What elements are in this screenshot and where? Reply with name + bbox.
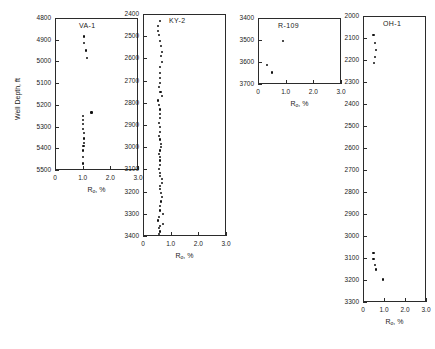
ytick-label-oh-1-2700: 2700 xyxy=(334,166,359,173)
ytick-mark-oh-1-2800 xyxy=(363,192,367,193)
xtick-label-oh-1-0: 0 xyxy=(353,306,373,313)
ytick-mark-oh-1-2700 xyxy=(363,170,367,171)
ytick-label-oh-1-2600: 2600 xyxy=(334,144,359,151)
ytick-label-oh-1-2200: 2200 xyxy=(334,56,359,63)
xaxis-title-oh-1: Ro, % xyxy=(370,318,420,326)
data-point xyxy=(382,278,384,280)
ytick-label-oh-1-2500: 2500 xyxy=(334,122,359,129)
ytick-mark-oh-1-2200 xyxy=(363,60,367,61)
data-point xyxy=(372,258,374,260)
xtick-mark-oh-1-1.0 xyxy=(384,298,385,302)
data-point xyxy=(372,34,374,36)
ytick-label-oh-1-2400: 2400 xyxy=(334,100,359,107)
panel-oh-1: OH-1200021002200230024002500260027002800… xyxy=(0,0,435,349)
panel-title-oh-1: OH-1 xyxy=(383,20,401,27)
ytick-label-oh-1-2300: 2300 xyxy=(334,78,359,85)
data-point xyxy=(375,268,377,270)
data-point xyxy=(374,42,376,44)
ytick-mark-oh-1-2300 xyxy=(363,82,367,83)
ytick-label-oh-1-2100: 2100 xyxy=(334,34,359,41)
xtick-mark-oh-1-2.0 xyxy=(405,298,406,302)
ytick-label-oh-1-2900: 2900 xyxy=(334,210,359,217)
xtick-label-oh-1-2.0: 2.0 xyxy=(395,306,415,313)
xaxis-title-unit: , % xyxy=(393,318,403,325)
ytick-label-oh-1-2000: 2000 xyxy=(334,12,359,19)
ytick-mark-oh-1-3100 xyxy=(363,258,367,259)
ytick-mark-oh-1-3000 xyxy=(363,236,367,237)
ytick-label-oh-1-3200: 3200 xyxy=(334,276,359,283)
vitrinite-reflectance-figure: VA-14800490050005100520053005400550001.0… xyxy=(0,0,435,349)
ytick-mark-oh-1-3200 xyxy=(363,280,367,281)
ytick-mark-oh-1-2000 xyxy=(363,16,367,17)
xtick-mark-oh-1-0 xyxy=(363,298,364,302)
xtick-mark-oh-1-3.0 xyxy=(426,298,427,302)
ytick-mark-oh-1-2900 xyxy=(363,214,367,215)
ytick-label-oh-1-3000: 3000 xyxy=(334,232,359,239)
xtick-label-oh-1-3.0: 3.0 xyxy=(416,306,435,313)
ytick-mark-oh-1-2500 xyxy=(363,126,367,127)
ytick-mark-oh-1-2400 xyxy=(363,104,367,105)
ytick-label-oh-1-3300: 3300 xyxy=(334,298,359,305)
xtick-label-oh-1-1.0: 1.0 xyxy=(374,306,394,313)
data-point xyxy=(372,252,374,254)
ytick-mark-oh-1-2600 xyxy=(363,148,367,149)
ytick-mark-oh-1-2100 xyxy=(363,38,367,39)
ytick-label-oh-1-3100: 3100 xyxy=(334,254,359,261)
yaxis-title: Well Depth, ft xyxy=(14,78,21,120)
ytick-label-oh-1-2800: 2800 xyxy=(334,188,359,195)
ytick-mark-oh-1-3300 xyxy=(363,302,367,303)
